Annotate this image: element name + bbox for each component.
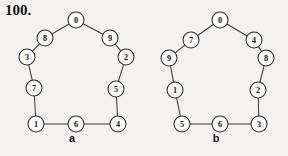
graph-node: 0: [212, 12, 228, 28]
graph-edge: [175, 45, 185, 53]
graph-node: 3: [251, 116, 267, 132]
graph-node: 9: [161, 50, 177, 66]
graph-node-circle: [161, 50, 177, 66]
graph-edge: [52, 24, 69, 34]
graph-edge: [33, 44, 40, 51]
graph-node-circle: [108, 81, 124, 97]
graph-node: 2: [118, 49, 134, 65]
graph-node-circle: [183, 32, 199, 48]
graph-edge: [118, 65, 123, 82]
graph-node: 5: [174, 116, 190, 132]
graph-node-circle: [68, 116, 84, 132]
graph-node: 6: [212, 116, 228, 132]
graph-drawing-b: 0482365197: [144, 0, 288, 140]
graph-node: 9: [102, 30, 118, 46]
graph-node: 3: [19, 49, 35, 65]
graph-node-circle: [174, 116, 190, 132]
graph-edge: [258, 47, 261, 52]
graph-node-circle: [19, 49, 35, 65]
graph-node-circle: [167, 82, 183, 98]
graph-node-circle: [250, 82, 266, 98]
graph-figure-b: 0482365197 b: [144, 0, 288, 156]
graph-edge: [258, 98, 259, 116]
graph-node-circle: [212, 12, 228, 28]
graph-node: 6: [68, 116, 84, 132]
graph-node: 7: [26, 80, 42, 96]
graph-node: 8: [258, 50, 274, 66]
graph-drawing-a: 0925461738: [0, 0, 144, 140]
graph-node-circle: [26, 80, 42, 96]
graph-figure-a: 0925461738 a: [0, 0, 144, 156]
graph-edge: [34, 96, 35, 116]
graph-node-circle: [68, 12, 84, 28]
graph-node-circle: [246, 32, 262, 48]
graph-node: 1: [167, 82, 183, 98]
graph-edge: [170, 66, 173, 82]
graph-node: 0: [68, 12, 84, 28]
graph-node-circle: [110, 116, 126, 132]
graph-node: 8: [37, 30, 53, 46]
graph-node-circle: [37, 30, 53, 46]
graph-edge: [115, 44, 121, 51]
graph-edge: [260, 66, 264, 82]
graph-edge: [227, 24, 247, 36]
graph-edge: [177, 98, 181, 116]
graph-node-circle: [28, 116, 44, 132]
graph-node: 2: [250, 82, 266, 98]
figure-caption-b: b: [144, 132, 288, 144]
graph-node: 7: [183, 32, 199, 48]
graph-node: 1: [28, 116, 44, 132]
graph-node: 5: [108, 81, 124, 97]
graph-node-circle: [251, 116, 267, 132]
graph-node: 4: [246, 32, 262, 48]
figure-panel: 100. 0925461738 a 0482365197 b: [0, 0, 288, 156]
graph-node: 4: [110, 116, 126, 132]
graph-edge: [116, 97, 117, 116]
graph-node-circle: [118, 49, 134, 65]
graph-node-circle: [258, 50, 274, 66]
graph-node-circle: [212, 116, 228, 132]
figure-caption-a: a: [0, 132, 144, 144]
graph-node-circle: [102, 30, 118, 46]
graph-edge: [198, 25, 214, 36]
graph-edge: [83, 24, 103, 35]
graph-edge: [29, 65, 32, 80]
